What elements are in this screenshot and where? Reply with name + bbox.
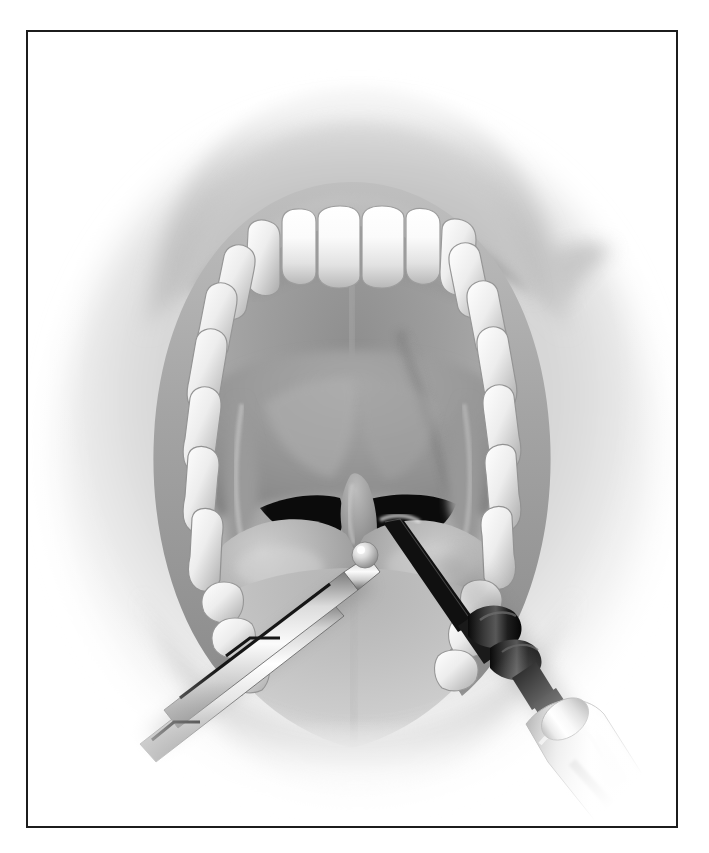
oral-cavity-illustration bbox=[28, 32, 676, 826]
figure-frame: Grayscale medical illustration of an ope… bbox=[26, 30, 678, 828]
vignette bbox=[28, 32, 676, 826]
illustration-page: Grayscale medical illustration of an ope… bbox=[0, 0, 709, 853]
